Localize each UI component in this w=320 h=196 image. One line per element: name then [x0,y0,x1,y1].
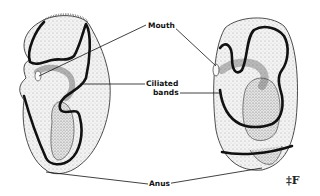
left-mouth-opening [35,71,41,81]
anus-leader-right [166,168,262,184]
right-larva [213,18,298,170]
mouth-leader-right [172,25,216,66]
publisher-logo: ‡F [286,174,300,187]
anus-leader-left [46,172,148,184]
label-ciliated: Ciliated [145,80,179,88]
left-larva [20,14,110,174]
label-anus: Anus [148,180,171,188]
label-bands: bands [152,89,180,97]
label-mouth: Mouth [147,22,176,30]
